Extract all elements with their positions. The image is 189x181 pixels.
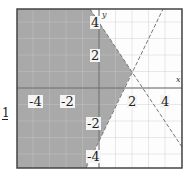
- y-tick: 4: [90, 16, 100, 29]
- x-tick: -4: [28, 95, 43, 108]
- x-tick: 4: [160, 95, 170, 108]
- x-tick: 2: [127, 95, 137, 108]
- margin-fragment: 1: [2, 108, 8, 120]
- y-tick: 2: [90, 49, 100, 62]
- y-axis-label: y: [102, 10, 107, 19]
- x-axis-label: x: [176, 75, 181, 84]
- y-tick: -4: [86, 150, 101, 163]
- x-tick: -2: [60, 95, 75, 108]
- y-tick: -2: [86, 117, 101, 130]
